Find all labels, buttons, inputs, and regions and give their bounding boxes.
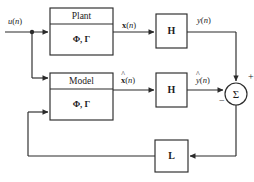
signal-label-input: u(n) [8, 17, 22, 26]
model-block-params: Φ, Γ [50, 100, 113, 109]
output-estimate-hat-accent: ^ [196, 71, 200, 79]
model-block-title: Model [50, 77, 113, 87]
state-estimate-hat-accent: ^ [121, 71, 125, 79]
gain-l-block-label: L [155, 151, 188, 161]
sigma-symbol: Σ [226, 88, 246, 100]
signal-label-output: y(n) [197, 16, 211, 25]
signal-label-state: x(n) [122, 21, 136, 30]
summer-plus-sign: + [248, 72, 254, 82]
block-diagram: Plant Φ, Γ Model Φ, Γ H H L Σ + − u(n) x… [0, 0, 254, 182]
plant-block-params: Φ, Γ [50, 35, 113, 44]
summer-minus-sign: − [219, 96, 225, 106]
input-junction-dot [30, 30, 34, 34]
signal-label-output-estimate: ^y(n) [196, 76, 210, 85]
h-top-block-label: H [156, 26, 187, 36]
plant-block-title: Plant [50, 12, 113, 22]
h-bottom-block-label: H [156, 85, 187, 95]
signal-label-state-estimate: ^x(n) [121, 76, 135, 85]
